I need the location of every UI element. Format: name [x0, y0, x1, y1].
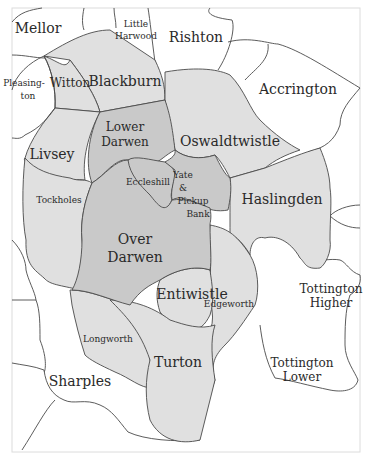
label-livsey: Livsey: [29, 146, 74, 162]
label-tottington-lower-1: Tottington: [271, 356, 334, 370]
label-sharples: Sharples: [49, 373, 112, 389]
label-yate-2: &: [179, 183, 187, 193]
label-yate-1: Yate: [172, 170, 193, 180]
label-turton: Turton: [154, 354, 202, 370]
label-over-darwen-2: Darwen: [107, 249, 163, 265]
label-edgeworth: Edgeworth: [204, 299, 254, 309]
label-rishton: Rishton: [169, 29, 223, 45]
label-longworth: Longworth: [83, 334, 133, 344]
label-tottington-higher-1: Tottington: [300, 282, 363, 296]
label-yate-4: Bank: [186, 209, 210, 219]
label-haslingden: Haslingden: [242, 191, 323, 207]
label-eccleshill: Eccleshill: [126, 177, 170, 187]
label-blackburn: Blackburn: [88, 73, 161, 89]
label-tottington-lower-2: Lower: [283, 370, 322, 384]
label-little-harwood-2: Harwood: [115, 31, 157, 41]
township-map: Mellor Little Harwood Rishton Pleasing- …: [0, 0, 373, 462]
label-oswaldtwistle: Oswaldtwistle: [180, 133, 280, 149]
label-lower-darwen-2: Darwen: [101, 135, 149, 149]
label-pleasington-1: Pleasing-: [3, 78, 45, 88]
label-witton: Witton: [50, 76, 91, 90]
label-mellor: Mellor: [15, 20, 62, 36]
label-yate-3: Pickup: [178, 196, 209, 206]
label-little-harwood-1: Little: [124, 19, 148, 29]
label-tockholes: Tockholes: [36, 195, 82, 205]
label-over-darwen-1: Over: [118, 231, 153, 247]
label-accrington: Accrington: [258, 81, 337, 97]
label-pleasington-2: ton: [21, 91, 36, 101]
label-lower-darwen-1: Lower: [106, 120, 145, 134]
label-tottington-higher-2: Higher: [310, 296, 353, 310]
